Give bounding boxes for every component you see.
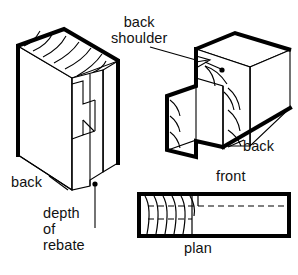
label-plan: plan bbox=[184, 240, 212, 256]
label-depth-line3: rebate bbox=[43, 237, 85, 253]
label-back-right: back bbox=[243, 138, 274, 154]
label-back-shoulder-line2: shoulder bbox=[111, 30, 167, 46]
label-depth-line1: depth bbox=[43, 205, 85, 221]
label-depth-of-rebate: depth of rebate bbox=[43, 205, 85, 253]
left-board-rebate-face bbox=[72, 70, 103, 190]
label-back-shoulder: back shoulder bbox=[111, 14, 167, 46]
left-isometric-view bbox=[17, 29, 119, 190]
figure-container: back shoulder back depth of rebate back … bbox=[0, 0, 298, 275]
label-back-left: back bbox=[11, 174, 42, 190]
leader-depth-of-rebate bbox=[92, 181, 97, 228]
label-depth-line2: of bbox=[43, 221, 85, 237]
label-back-shoulder-line1: back bbox=[111, 14, 167, 30]
right-rail-front-face bbox=[250, 50, 290, 146]
plan-outline bbox=[139, 194, 289, 236]
left-board-right-face bbox=[103, 61, 118, 172]
label-front: front bbox=[216, 168, 246, 184]
plan-view bbox=[139, 194, 289, 236]
